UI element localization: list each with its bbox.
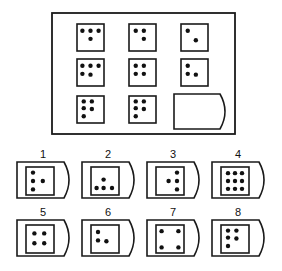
dot [175,187,179,191]
dot [142,72,146,76]
dot [142,29,146,33]
dot [80,72,84,76]
dot [31,179,35,183]
dot [32,231,36,235]
dot [233,179,237,183]
dot [101,186,105,190]
dot [234,236,238,240]
option-label: 2 [105,148,111,160]
dot [42,231,46,235]
option-inner-square [91,225,119,253]
puzzle-canvas: 12345678 [0,0,282,271]
dot [82,99,86,103]
option-label: 3 [170,148,176,160]
dot [142,107,146,111]
dot [80,29,84,33]
dot [175,170,179,174]
dot [134,114,138,118]
dot [42,241,46,245]
dot [88,72,92,76]
dot [96,29,100,33]
dot [159,245,163,249]
option-label: 6 [105,206,111,218]
dot [226,187,230,191]
option-label: 1 [40,148,46,160]
dot [80,64,84,68]
dot [186,64,190,68]
dot [240,187,244,191]
dot [88,37,92,41]
dot [176,229,180,233]
dot [226,171,230,175]
dot [142,64,146,68]
dot [104,239,108,243]
dot [82,114,86,118]
dot [88,29,92,33]
dot [159,229,163,233]
dot [142,37,146,41]
option-label: 4 [235,148,241,160]
dot [233,187,237,191]
option-inner-square [26,225,54,253]
dot [31,170,35,174]
dot [41,179,45,183]
dot [142,99,146,103]
dot [134,72,138,76]
dot [31,187,35,191]
dot [226,228,230,232]
dot [226,235,230,239]
missing-cell-placeholder [174,94,225,129]
dot [134,29,138,33]
dot [101,177,105,181]
dot [96,230,100,234]
dot [134,64,138,68]
dot [176,245,180,249]
dot [32,241,36,245]
dot [226,244,230,248]
dot [88,64,92,68]
dot [166,179,170,183]
option-label: 7 [170,206,176,218]
dot [82,106,86,110]
dot [96,238,100,242]
dot [134,106,138,110]
dot [110,186,114,190]
dot [234,228,238,232]
dot [90,99,94,103]
dot [186,72,190,76]
dot [240,179,244,183]
dot [94,186,98,190]
dot [186,29,190,33]
dot [90,107,94,111]
option-inner-square [26,167,54,195]
dot [134,99,138,103]
dot [194,38,198,42]
grid-cell [181,24,208,51]
grid-cell [181,59,208,86]
dot [96,64,100,68]
dot [233,171,237,175]
dot [240,171,244,175]
dot [175,179,179,183]
option-label: 5 [40,206,46,218]
option-label: 8 [235,206,241,218]
dot [194,72,198,76]
dot [226,179,230,183]
